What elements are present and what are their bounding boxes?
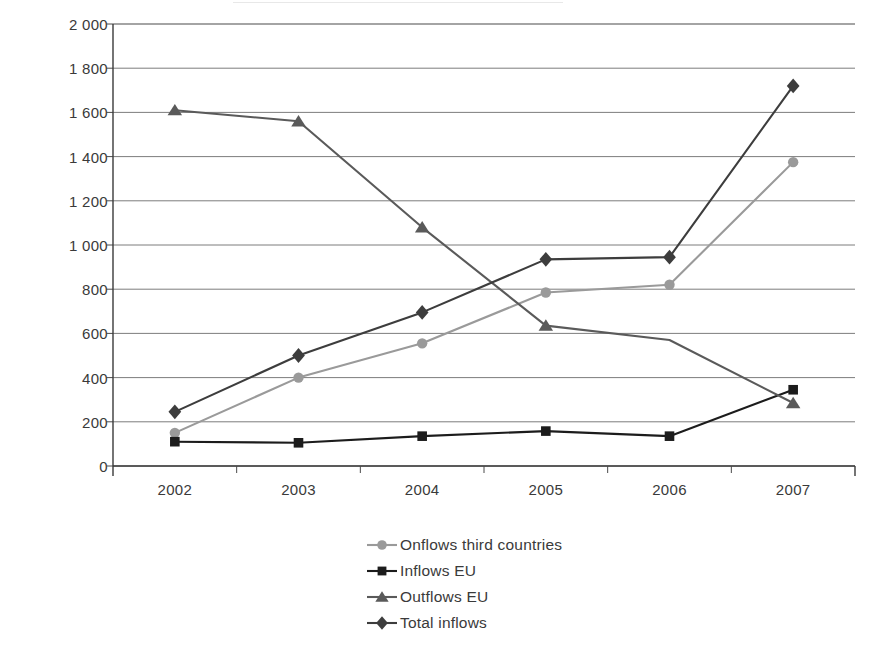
x-tick-label: 2005	[529, 481, 564, 498]
data-point-square	[378, 567, 387, 576]
data-point-diamond	[292, 348, 305, 363]
legend-label: Outflows EU	[400, 588, 488, 606]
data-point-circle	[293, 372, 303, 382]
data-point-square	[294, 438, 304, 448]
data-point-diamond	[539, 252, 552, 267]
x-tick-label: 2006	[652, 481, 687, 498]
data-point-circle	[788, 157, 798, 167]
legend-label: Total inflows	[400, 614, 487, 632]
series-line	[175, 110, 793, 403]
data-point-circle	[170, 428, 180, 438]
chart-legend: Onflows third countriesInflows EUOutflow…	[366, 533, 696, 637]
data-point-diamond	[168, 404, 181, 419]
legend-square-icon	[366, 561, 398, 581]
legend-item[interactable]: Onflows third countries	[366, 533, 696, 557]
data-point-circle	[664, 280, 674, 290]
data-point-square	[788, 385, 798, 395]
legend-triangle-icon	[366, 587, 398, 607]
data-point-triangle	[786, 397, 800, 408]
legend-item[interactable]: Inflows EU	[366, 559, 696, 583]
legend-item[interactable]: Total inflows	[366, 611, 696, 635]
data-point-diamond	[416, 305, 429, 320]
data-point-square	[417, 431, 427, 441]
legend-circle-icon	[366, 535, 398, 555]
series-outflows-eu	[168, 104, 801, 408]
x-tick-label: 2004	[405, 481, 440, 498]
data-point-diamond	[376, 616, 388, 630]
line-chart: Numbers 02004006008001 0001 2001 4001 60…	[0, 0, 871, 658]
series-onflows-third-countries	[170, 157, 799, 438]
data-point-square	[541, 426, 551, 436]
data-point-square	[665, 431, 675, 441]
legend-diamond-icon	[366, 613, 398, 633]
series-line	[175, 390, 793, 443]
x-tick-label: 2003	[281, 481, 316, 498]
series-line	[175, 162, 793, 433]
series-line	[175, 86, 793, 412]
legend-label: Onflows third countries	[400, 536, 562, 554]
series-inflows-eu	[170, 385, 798, 448]
data-point-square	[170, 437, 180, 447]
x-tick-label: 2002	[158, 481, 193, 498]
data-point-circle	[541, 287, 551, 297]
data-point-circle	[377, 540, 387, 550]
legend-label: Inflows EU	[400, 562, 476, 580]
x-tick-label: 2007	[776, 481, 811, 498]
data-point-circle	[417, 338, 427, 348]
legend-item[interactable]: Outflows EU	[366, 585, 696, 609]
